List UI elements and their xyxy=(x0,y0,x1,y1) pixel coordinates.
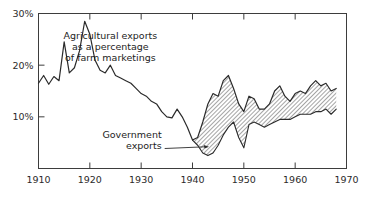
chart-container: 10%20%30% 1910192019301940195019601970 A… xyxy=(0,0,366,199)
x-tick-label: 1940 xyxy=(180,174,204,185)
annotation-line: Government xyxy=(102,129,162,140)
x-tick-label: 1950 xyxy=(232,174,256,185)
annotation-line: as a percentage xyxy=(72,41,149,52)
x-tick-label: 1910 xyxy=(26,174,50,185)
annotation-line: of farm marketings xyxy=(65,52,156,63)
agricultural-exports-chart: 10%20%30% 1910192019301940195019601970 A… xyxy=(0,0,366,199)
x-tick-label: 1970 xyxy=(334,174,358,185)
y-tick-label: 10% xyxy=(12,111,33,122)
annotation-line: exports xyxy=(126,140,162,151)
total-exports-annotation: Agricultural exportsas a percentageof fa… xyxy=(63,30,157,63)
annotation-line: Agricultural exports xyxy=(63,30,157,41)
x-tick-label: 1930 xyxy=(129,174,153,185)
x-tick-label: 1920 xyxy=(78,174,102,185)
x-tick-label: 1960 xyxy=(283,174,307,185)
y-tick-label: 30% xyxy=(12,8,33,19)
y-tick-label: 20% xyxy=(12,60,33,71)
